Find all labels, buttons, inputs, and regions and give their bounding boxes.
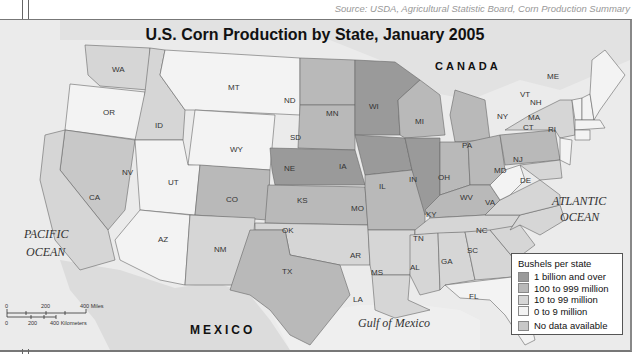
svg-text:NJ: NJ (513, 155, 523, 164)
svg-text:WI: WI (369, 102, 379, 111)
svg-text:0: 0 (5, 320, 8, 326)
legend-swatch (518, 306, 529, 316)
svg-text:OK: OK (282, 226, 294, 235)
mexico-label: MEXICO (190, 323, 255, 337)
svg-text:LA: LA (353, 295, 363, 304)
svg-text:OCEAN: OCEAN (560, 210, 600, 224)
svg-text:WV: WV (460, 193, 474, 202)
svg-text:FL: FL (469, 292, 479, 301)
svg-text:SC: SC (467, 246, 478, 255)
svg-text:UT: UT (168, 178, 179, 187)
svg-text:400 Miles: 400 Miles (80, 303, 104, 309)
state-IA (355, 135, 412, 175)
svg-text:KS: KS (297, 196, 308, 205)
state-NJ (560, 138, 572, 165)
corn-production-map: WA OR ID MT WY NV UT CA AZ CO NM TX OK K… (0, 19, 632, 352)
svg-text:ATLANTIC: ATLANTIC (551, 194, 607, 208)
map-legend: Bushels per state 1 billion and over 100… (511, 253, 623, 335)
svg-text:CT: CT (523, 123, 534, 132)
svg-text:NV: NV (122, 168, 134, 177)
svg-text:CA: CA (89, 193, 101, 202)
svg-text:MT: MT (228, 83, 240, 92)
page-header: Source: USDA, Agricultural Statistic Boa… (0, 0, 636, 19)
svg-text:GA: GA (441, 257, 453, 266)
legend-swatch (518, 272, 529, 282)
state-CO (195, 165, 270, 220)
svg-text:MI: MI (415, 117, 424, 126)
svg-text:MD: MD (494, 166, 507, 175)
svg-text:Gulf of Mexico: Gulf of Mexico (358, 316, 430, 330)
canada-label: CANADA (435, 60, 501, 72)
svg-text:CO: CO (226, 195, 238, 204)
svg-text:NE: NE (284, 164, 295, 173)
state-ND (300, 58, 355, 105)
legend-item: 10 to 99 million (518, 294, 616, 306)
svg-text:MN: MN (326, 109, 339, 118)
svg-text:ID: ID (155, 121, 163, 130)
svg-text:NC: NC (476, 226, 488, 235)
svg-text:MA: MA (528, 113, 541, 122)
svg-text:200: 200 (41, 303, 50, 309)
legend-swatch (518, 295, 529, 305)
state-WY (188, 110, 275, 170)
svg-text:ND: ND (284, 96, 296, 105)
svg-text:OR: OR (103, 108, 115, 117)
state-CT (575, 130, 590, 140)
svg-text:400 Kilometers: 400 Kilometers (50, 320, 87, 326)
svg-text:AZ: AZ (158, 235, 168, 244)
state-MA (575, 120, 605, 130)
svg-text:IA: IA (339, 162, 347, 171)
source-citation: Source: USDA, Agricultural Statistic Boa… (335, 3, 630, 14)
svg-text:WY: WY (230, 145, 244, 154)
map-title: U.S. Corn Production by State, January 2… (0, 26, 630, 44)
legend-item: 100 to 999 million (518, 283, 616, 295)
svg-text:PACIFIC: PACIFIC (23, 227, 69, 241)
svg-text:0: 0 (5, 303, 8, 309)
svg-text:VT: VT (520, 90, 530, 99)
svg-text:NH: NH (530, 98, 542, 107)
svg-text:NM: NM (214, 245, 227, 254)
svg-text:200: 200 (28, 320, 37, 326)
svg-text:MS: MS (371, 268, 383, 277)
svg-text:SD: SD (290, 133, 301, 142)
svg-text:PA: PA (462, 141, 473, 150)
legend-swatch (518, 321, 529, 331)
legend-swatch (518, 283, 529, 293)
svg-text:DE: DE (520, 176, 531, 185)
legend-title: Bushels per state (518, 258, 616, 269)
legend-item: 1 billion and over (518, 271, 616, 283)
margin-rule (22, 0, 23, 20)
svg-text:AL: AL (410, 263, 420, 272)
svg-text:ME: ME (547, 72, 559, 81)
margin-rule (22, 349, 23, 354)
svg-text:NY: NY (497, 112, 509, 121)
svg-text:KY: KY (426, 210, 437, 219)
legend-item: 0 to 9 million (518, 306, 616, 318)
svg-text:AR: AR (350, 251, 361, 260)
svg-text:RI: RI (548, 125, 556, 134)
margin-rule (28, 349, 29, 354)
legend-item: No data available (518, 320, 616, 332)
margin-rule (28, 0, 29, 20)
svg-text:TX: TX (282, 267, 293, 276)
svg-text:OH: OH (438, 173, 450, 182)
svg-text:TN: TN (413, 234, 424, 243)
svg-text:IL: IL (379, 182, 386, 191)
svg-text:VA: VA (485, 198, 496, 207)
svg-text:WA: WA (112, 65, 125, 74)
svg-text:MO: MO (351, 204, 364, 213)
svg-text:IN: IN (409, 175, 417, 184)
state-PA (500, 130, 560, 165)
svg-text:OCEAN: OCEAN (26, 245, 66, 259)
